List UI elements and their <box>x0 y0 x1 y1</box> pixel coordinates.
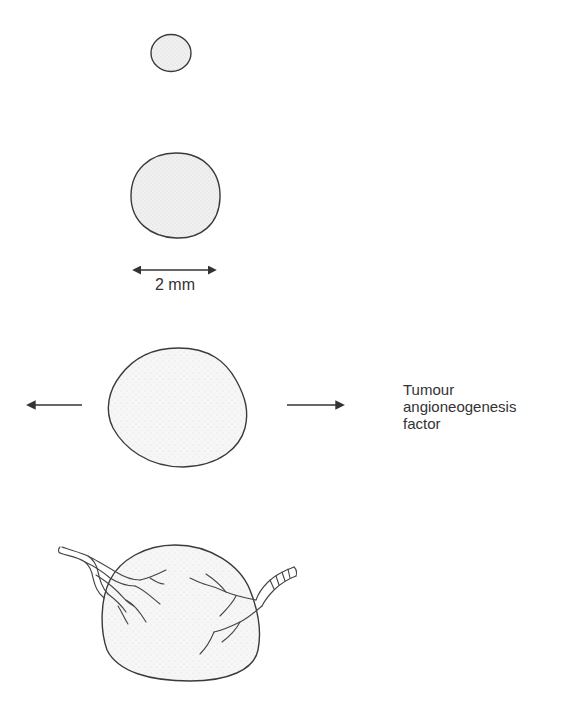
factor-label: Tumour angioneogenesis factor <box>403 381 516 432</box>
small-avascular-tumour <box>151 35 191 72</box>
factor-label-line1: Tumour <box>403 381 454 398</box>
scale-bar: 2 mm <box>134 270 215 293</box>
vascularised-tumour <box>59 545 297 681</box>
factor-label-line2: angioneogenesis <box>403 398 516 415</box>
scale-label: 2 mm <box>155 276 195 293</box>
tumour-angiogenesis-diagram: 2 mm Tumour angioneogenesis factor <box>0 0 570 707</box>
factor-label-line3: factor <box>403 415 441 432</box>
tumour-secreting-factor <box>108 348 246 467</box>
medium-avascular-tumour <box>131 153 220 238</box>
